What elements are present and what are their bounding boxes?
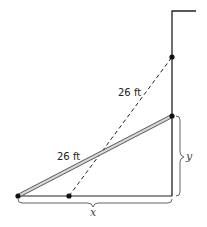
- wall: [172, 11, 196, 196]
- label-ladder-bottom-length: 26 ft: [57, 151, 80, 162]
- brace-y: [176, 116, 184, 196]
- ladder-diagram: 26 ft 26 ft y x: [0, 0, 207, 227]
- point-ladder2-foot: [15, 193, 20, 198]
- point-ladder1-foot: [66, 193, 71, 198]
- label-y: y: [185, 150, 193, 163]
- label-x: x: [90, 206, 97, 219]
- point-ladder1-top: [169, 54, 174, 59]
- point-ladder2-top: [169, 113, 174, 118]
- ladder-slipped-fill: [18, 116, 172, 196]
- ladder-original-dashed: [69, 57, 172, 196]
- label-ladder-top-length: 26 ft: [118, 87, 141, 98]
